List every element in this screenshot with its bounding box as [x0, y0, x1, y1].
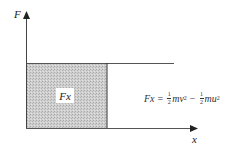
fraction-half: 1 2 [167, 91, 171, 105]
work-energy-equation: Fx = 1 2 mv2 − 1 2 mu2 [144, 91, 220, 105]
y-axis-arrow-icon [23, 11, 30, 19]
area-label: Fx [56, 88, 74, 103]
y-axis-label: F [14, 9, 21, 20]
equation-lhs: Fx [144, 93, 155, 104]
minus-sign: − [190, 93, 196, 104]
fraction-half: 1 2 [200, 91, 204, 105]
equals-sign: = [158, 93, 164, 104]
x-axis-label: x [192, 134, 197, 145]
x-axis-arrow-icon [190, 125, 198, 132]
force-displacement-graph [0, 0, 236, 148]
term-mu: mu [205, 93, 217, 104]
term-mv: mv [172, 93, 184, 104]
